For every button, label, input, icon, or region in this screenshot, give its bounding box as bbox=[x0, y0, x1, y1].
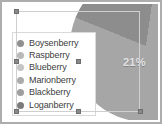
resize-handle-middle-left[interactable] bbox=[14, 59, 19, 64]
chart-legend[interactable]: Boysenberry Raspberry Blueberry Marionbe… bbox=[12, 32, 96, 116]
legend-swatch-icon bbox=[17, 64, 24, 71]
chart-plot-area[interactable]: 21% Boysenberry Raspberry Blueberry Mari… bbox=[4, 4, 158, 120]
resize-handle-top-left[interactable] bbox=[14, 9, 19, 14]
resize-handle-middle-center[interactable] bbox=[76, 59, 81, 64]
resize-handle-bottom-center[interactable] bbox=[76, 109, 81, 114]
legend-swatch-icon bbox=[17, 102, 24, 109]
resize-handle-bottom-right[interactable] bbox=[138, 109, 143, 114]
legend-item-boysenberry[interactable]: Boysenberry bbox=[17, 37, 92, 49]
legend-item-label: Blueberry bbox=[29, 62, 67, 73]
legend-swatch-icon bbox=[17, 77, 24, 84]
pie-data-label-21: 21% bbox=[123, 56, 146, 68]
legend-item-label: Boysenberry bbox=[29, 38, 78, 49]
legend-item-blackberry[interactable]: Blackberry bbox=[17, 87, 92, 99]
legend-item-label: Blackberry bbox=[29, 87, 71, 98]
legend-swatch-icon bbox=[17, 40, 24, 47]
legend-item-label: Marionberry bbox=[29, 75, 76, 86]
legend-item-label: Raspberry bbox=[29, 50, 70, 61]
legend-swatch-icon bbox=[17, 89, 24, 96]
chart-screenshot: 21% Boysenberry Raspberry Blueberry Mari… bbox=[0, 0, 162, 124]
legend-item-marionberry[interactable]: Marionberry bbox=[17, 74, 92, 86]
resize-handle-bottom-left[interactable] bbox=[14, 109, 19, 114]
legend-item-label: Loganberry bbox=[29, 100, 74, 111]
